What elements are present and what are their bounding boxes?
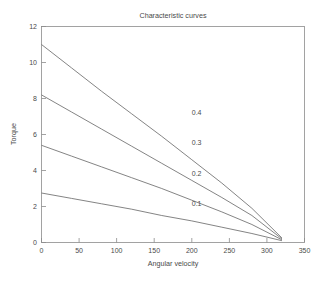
y-tick-label: 4 xyxy=(33,167,37,174)
curve-0.2 xyxy=(42,145,282,240)
characteristic-curves-plot: Characteristic curves Angular velocity T… xyxy=(0,0,324,285)
x-tick-label: 50 xyxy=(75,247,83,254)
curve-label-0.2: 0.2 xyxy=(192,170,202,177)
x-tick-label: 250 xyxy=(224,247,236,254)
y-tick-label: 12 xyxy=(29,23,37,30)
x-tick-label: 100 xyxy=(111,247,123,254)
x-tick-label: 200 xyxy=(186,247,198,254)
x-axis-label: Angular velocity xyxy=(148,259,199,268)
curve-label-0.1: 0.1 xyxy=(192,200,202,207)
curve-0.1 xyxy=(42,193,282,241)
curve-label-0.3: 0.3 xyxy=(192,139,202,146)
x-axis-ticks: 0 50 100 150 200 250 300 350 xyxy=(40,238,311,254)
x-tick-label: 350 xyxy=(299,247,311,254)
y-tick-label: 2 xyxy=(33,203,37,210)
curve-0.3 xyxy=(42,95,282,239)
y-tick-label: 0 xyxy=(33,239,37,246)
y-axis-ticks: 0 2 4 6 8 10 12 xyxy=(29,23,46,246)
curve-label-0.4: 0.4 xyxy=(192,109,202,116)
x-tick-label: 0 xyxy=(40,247,44,254)
y-axis-label: Torque xyxy=(9,123,18,145)
curve-0.4 xyxy=(42,45,282,239)
chart-figure: Characteristic curves Angular velocity T… xyxy=(0,0,324,285)
x-tick-label: 150 xyxy=(148,247,160,254)
curve-series-group xyxy=(42,45,282,241)
y-tick-label: 6 xyxy=(33,131,37,138)
chart-title: Characteristic curves xyxy=(139,11,207,20)
curve-annotations: 0.4 0.3 0.2 0.1 xyxy=(192,109,202,207)
y-tick-label: 8 xyxy=(33,95,37,102)
axes-frame xyxy=(42,27,305,243)
x-tick-label: 300 xyxy=(261,247,273,254)
y-tick-label: 10 xyxy=(29,59,37,66)
